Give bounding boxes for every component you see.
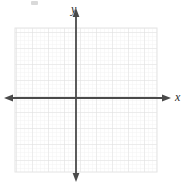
x-axis-label: x: [175, 91, 180, 103]
coordinate-grid-svg: [0, 0, 187, 188]
x-axis-left-arrowhead: [4, 95, 13, 102]
y-axis-label: y: [71, 3, 76, 15]
coordinate-plane-figure: y x: [0, 0, 187, 188]
y-axis-bottom-arrowhead: [73, 173, 80, 182]
grid-area: [15, 28, 157, 172]
x-axis-right-arrowhead: [162, 95, 171, 102]
